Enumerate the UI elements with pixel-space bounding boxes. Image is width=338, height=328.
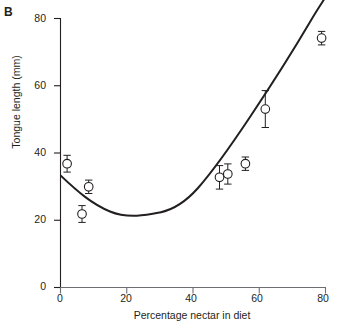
- fit-curve: [61, 0, 331, 216]
- data-point: [241, 157, 250, 170]
- figure-panel-b: B Tongue length (mm) Percentage nectar i…: [0, 0, 338, 328]
- data-point: [317, 31, 326, 45]
- data-point: [215, 166, 224, 190]
- data-point: [78, 206, 87, 223]
- data-point: [224, 164, 233, 184]
- data-point: [261, 91, 270, 128]
- plot-svg: [0, 0, 338, 328]
- data-point: [84, 180, 93, 193]
- data-point: [63, 155, 72, 172]
- y-axis-ticks: [54, 19, 60, 288]
- x-axis-ticks: [61, 288, 326, 294]
